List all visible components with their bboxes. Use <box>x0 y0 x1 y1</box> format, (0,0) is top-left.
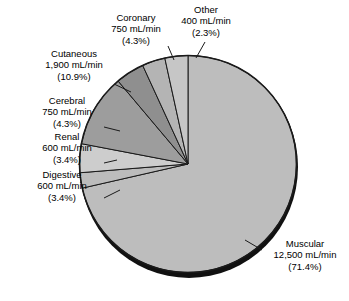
slice-label-renal-percent: (3.4%) <box>30 154 104 165</box>
slice-label-digestive: Digestive 600 mL/min (3.4%) <box>20 169 104 203</box>
slice-label-muscular-percent: (71.4%) <box>262 261 348 272</box>
slice-label-renal: Renal 600 mL/min (3.4%) <box>30 131 104 165</box>
slice-label-cutaneous: Cutaneous 1,900 mL/min (10.9%) <box>34 48 114 82</box>
slice-label-cerebral: Cerebral 750 mL/min (4.3%) <box>30 95 104 129</box>
slice-label-cutaneous-value: 1,900 mL/min <box>34 59 114 70</box>
slice-label-muscular: Muscular 12,500 mL/min (71.4%) <box>262 238 348 272</box>
slice-label-coronary: Coronary 750 mL/min (4.3%) <box>104 12 168 46</box>
slice-label-renal-name: Renal <box>30 131 104 142</box>
slice-label-muscular-name: Muscular <box>262 238 348 249</box>
slice-label-cerebral-percent: (4.3%) <box>30 118 104 129</box>
slice-label-cerebral-name: Cerebral <box>30 95 104 106</box>
slice-label-digestive-name: Digestive <box>20 169 104 180</box>
slice-label-coronary-name: Coronary <box>104 12 168 23</box>
slice-label-cutaneous-percent: (10.9%) <box>34 71 114 82</box>
slice-label-digestive-value: 600 mL/min <box>20 180 104 191</box>
slice-label-coronary-percent: (4.3%) <box>104 35 168 46</box>
slice-label-other: Other 400 mL/min (2.3%) <box>174 4 238 38</box>
slice-label-coronary-value: 750 mL/min <box>104 23 168 34</box>
slice-label-cerebral-value: 750 mL/min <box>30 106 104 117</box>
pie-chart: Coronary 750 mL/min (4.3%) Other 400 mL/… <box>0 0 349 301</box>
slice-label-cutaneous-name: Cutaneous <box>34 48 114 59</box>
slice-label-other-name: Other <box>174 4 238 15</box>
slice-label-other-percent: (2.3%) <box>174 27 238 38</box>
slice-label-renal-value: 600 mL/min <box>30 142 104 153</box>
slice-label-digestive-percent: (3.4%) <box>20 192 104 203</box>
slice-label-other-value: 400 mL/min <box>174 15 238 26</box>
slice-label-muscular-value: 12,500 mL/min <box>262 249 348 260</box>
